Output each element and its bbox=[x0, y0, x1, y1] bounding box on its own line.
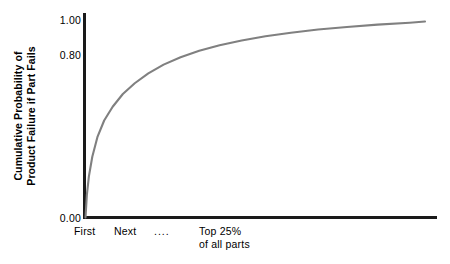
x-axis-tick-label-first: First bbox=[74, 225, 95, 238]
x-axis-tick-label-top-25-percent-line-1: Top 25% bbox=[199, 225, 241, 237]
x-axis-tick-label-ellipsis: .... bbox=[154, 225, 170, 238]
x-axis-tick-label-top-25-percent: Top 25% of all parts bbox=[199, 225, 250, 251]
x-axis-tick-label-top-25-percent-line-2: of all parts bbox=[199, 238, 250, 251]
cumulative-probability-curve bbox=[86, 22, 426, 218]
chart-figure: Cumulative Probability of Product Failur… bbox=[0, 0, 450, 264]
x-axis-tick-label-next: Next bbox=[114, 225, 136, 238]
